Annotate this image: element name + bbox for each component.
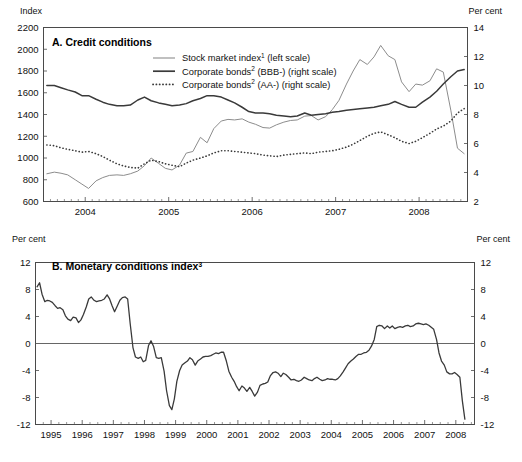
- y-tick-label: 1800: [17, 65, 38, 76]
- panel-b-title: B. Monetary conditions index3: [52, 260, 202, 272]
- x-tick-label: 2006: [242, 206, 263, 217]
- x-tick-label: 1996: [72, 429, 93, 440]
- panel-a-left-axis-title: Index: [20, 6, 43, 16]
- legend-label-corporate-bonds-aa: Corporate bonds2 (AA-) (right scale): [182, 78, 330, 90]
- y2-tick-label: 0: [481, 338, 486, 349]
- y2-tick-label: -12: [481, 419, 495, 430]
- y-tick-label: -12: [17, 419, 31, 430]
- y-tick-label: 600: [23, 196, 39, 207]
- y-tick-label: 1000: [17, 152, 38, 163]
- y2-tick-label: 14: [474, 22, 485, 33]
- x-tick-label: 2005: [352, 429, 373, 440]
- x-tick-label: 2005: [158, 206, 179, 217]
- x-tick-label: 2004: [75, 206, 96, 217]
- y2-tick-label: 8: [474, 109, 479, 120]
- y-tick-label: 1400: [17, 109, 38, 120]
- y-tick-label: 12: [20, 257, 31, 268]
- y2-tick-label: 10: [474, 80, 485, 91]
- panel-a-right-axis-title: Per cent: [468, 6, 502, 16]
- figure-svg: Index Per cent 6008001000120014001600180…: [0, 0, 522, 462]
- x-tick-label: 2003: [290, 429, 311, 440]
- x-tick-label: 2008: [409, 206, 430, 217]
- y-tick-label: 800: [23, 174, 39, 185]
- x-tick-label: 2004: [321, 429, 342, 440]
- y2-tick-label: 12: [474, 51, 485, 62]
- y2-tick-label: 2: [474, 196, 479, 207]
- y-tick-label: -4: [22, 365, 30, 376]
- x-tick-label: 1995: [40, 429, 61, 440]
- y2-tick-label: 4: [474, 167, 479, 178]
- y-tick-label: 0: [25, 338, 30, 349]
- panel-a-title: A. Credit conditions: [52, 36, 152, 48]
- y-tick-label: 2000: [17, 44, 38, 55]
- x-tick-label: 2002: [258, 429, 279, 440]
- y2-tick-label: 12: [481, 257, 492, 268]
- x-tick-label: 2007: [414, 429, 435, 440]
- y2-tick-label: 4: [481, 311, 486, 322]
- legend-label-stock-market-index: Stock market index1 (left scale): [182, 52, 310, 64]
- x-tick-label: 1997: [103, 429, 124, 440]
- y2-tick-label: 8: [481, 284, 486, 295]
- x-tick-label: 1998: [134, 429, 155, 440]
- y2-tick-label: 6: [474, 138, 479, 149]
- y-tick-label: 2200: [17, 22, 38, 33]
- legend-label-corporate-bonds-bbb: Corporate bonds2 (BBB-) (right scale): [182, 65, 337, 77]
- panel-b-right-axis-title: Per cent: [476, 234, 510, 244]
- x-tick-label: 2008: [445, 429, 466, 440]
- x-tick-label: 2007: [325, 206, 346, 217]
- y-tick-label: -8: [22, 392, 30, 403]
- y2-tick-label: -4: [481, 365, 489, 376]
- panel-b-left-axis-title: Per cent: [12, 234, 46, 244]
- x-tick-label: 2001: [227, 429, 248, 440]
- y-tick-label: 4: [25, 311, 30, 322]
- x-tick-label: 2006: [383, 429, 404, 440]
- x-tick-label: 1999: [165, 429, 186, 440]
- y-tick-label: 8: [25, 284, 30, 295]
- y2-tick-label: -8: [481, 392, 489, 403]
- y-tick-label: 1600: [17, 87, 38, 98]
- figure-root: Index Per cent 6008001000120014001600180…: [0, 0, 522, 462]
- y-tick-label: 1200: [17, 131, 38, 142]
- x-tick-label: 2000: [196, 429, 217, 440]
